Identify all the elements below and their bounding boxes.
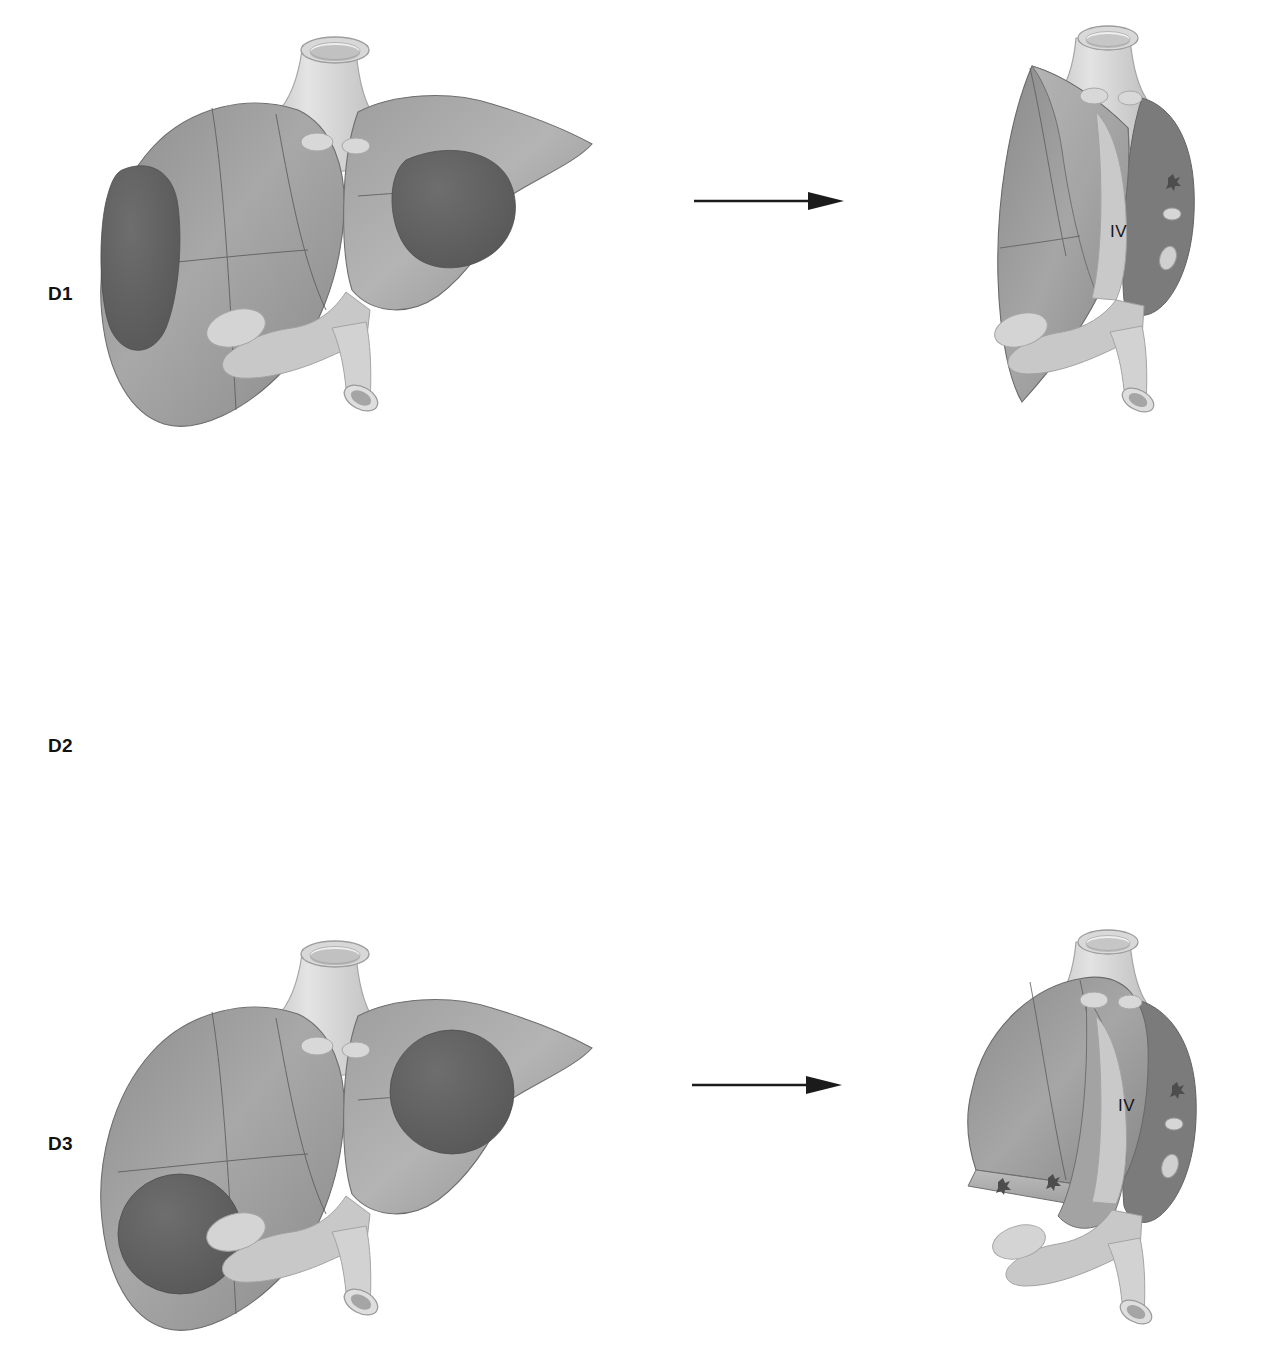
figure-row-d2: IV [0, 452, 1281, 904]
post-resection-remnant-d1 [880, 10, 1250, 430]
row-label-d1: D1 [48, 283, 73, 305]
segment-label-iv-d1: IV [1110, 222, 1127, 242]
row-label-d2: D2 [48, 735, 73, 757]
tumor-right-upper [392, 150, 515, 267]
figure-row-d1: IV [0, 0, 1281, 452]
tumor-left-lateral [101, 166, 180, 351]
pre-resection-liver-d1 [40, 10, 620, 440]
row-label-d3: D3 [48, 1133, 73, 1155]
liver-resection-figure: IV [0, 0, 1281, 1356]
transformation-arrow-d1 [694, 188, 846, 214]
hepatic-artery-stump [1163, 208, 1181, 220]
caudate-lobe [1123, 98, 1195, 315]
figure-row-d3: IV [0, 904, 1281, 1356]
